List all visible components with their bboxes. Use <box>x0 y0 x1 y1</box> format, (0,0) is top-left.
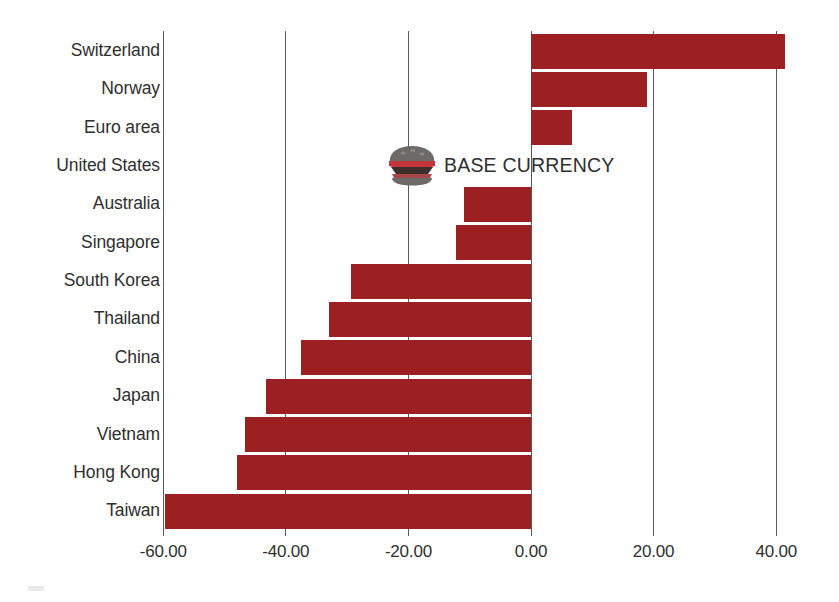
bar-row: Norway <box>0 70 839 108</box>
x-axis-tick-label: -60.00 <box>140 542 187 562</box>
category-label: Thailand <box>94 308 160 328</box>
category-label: Norway <box>101 78 160 98</box>
bar-row: Switzerland <box>0 32 839 70</box>
bar-row: China <box>0 339 839 377</box>
x-axis-tick-label: -40.00 <box>262 542 309 562</box>
bar-row: Euro area <box>0 109 839 147</box>
x-axis-tick-label: 20.00 <box>633 542 675 562</box>
scan-artifact <box>28 586 44 591</box>
category-label: Euro area <box>84 117 160 137</box>
x-axis-tick-label: -20.00 <box>385 542 432 562</box>
bar <box>301 340 531 375</box>
bar <box>531 34 785 69</box>
x-axis-tick-label: 40.00 <box>755 542 797 562</box>
bar <box>531 110 572 145</box>
category-label: United States <box>56 155 160 175</box>
bar <box>165 494 531 529</box>
bar-row: Vietnam <box>0 416 839 454</box>
bar-row: Taiwan <box>0 492 839 530</box>
bar-row: Singapore <box>0 224 839 262</box>
bar-row: Australia <box>0 185 839 223</box>
bar-chart: SwitzerlandNorwayEuro areaUnited StatesA… <box>0 0 839 602</box>
category-label: Hong Kong <box>73 462 160 482</box>
bar-row: Hong Kong <box>0 454 839 492</box>
bar <box>351 264 531 299</box>
bar <box>464 187 531 222</box>
category-label: Japan <box>113 385 160 405</box>
hamburger-icon <box>386 143 438 187</box>
x-axis-tick-label: 0.00 <box>515 542 547 562</box>
category-label: South Korea <box>64 270 160 290</box>
category-label: Singapore <box>81 232 160 252</box>
category-label: Taiwan <box>106 500 160 520</box>
bar-row: Japan <box>0 377 839 415</box>
bar <box>266 379 531 414</box>
bar <box>329 302 531 337</box>
bar <box>237 455 531 490</box>
plot-area: SwitzerlandNorwayEuro areaUnited StatesA… <box>0 0 839 602</box>
base-currency-label: BASE CURRENCY <box>444 154 615 176</box>
category-label: Australia <box>93 193 160 213</box>
bar-row: South Korea <box>0 262 839 300</box>
base-currency-annotation: BASE CURRENCY <box>386 143 615 187</box>
bar-row: Thailand <box>0 300 839 338</box>
bar <box>531 72 647 107</box>
category-label: Vietnam <box>97 424 160 444</box>
bar <box>456 225 531 260</box>
category-label: Switzerland <box>71 40 160 60</box>
category-label: China <box>115 347 160 367</box>
bar <box>245 417 531 452</box>
